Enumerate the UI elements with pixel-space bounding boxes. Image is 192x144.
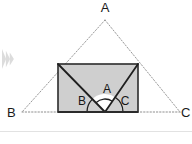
play-chevron-bar [6, 51, 10, 67]
inner-label-b: B [78, 94, 86, 108]
inner-label-c: C [121, 94, 130, 108]
geometry-diagram-svg: A B C A B C [0, 0, 192, 144]
bottom-divider [0, 131, 192, 132]
geometry-figure-canvas: A B C A B C [0, 0, 192, 144]
play-chevron-bar [10, 53, 14, 66]
play-chevron-bar [2, 49, 6, 69]
vertex-label-b: B [7, 105, 16, 120]
vertex-label-c: C [181, 105, 190, 120]
vertex-label-a: A [101, 0, 110, 15]
inner-label-a: A [103, 82, 111, 96]
play-chevron-icon [2, 49, 14, 69]
